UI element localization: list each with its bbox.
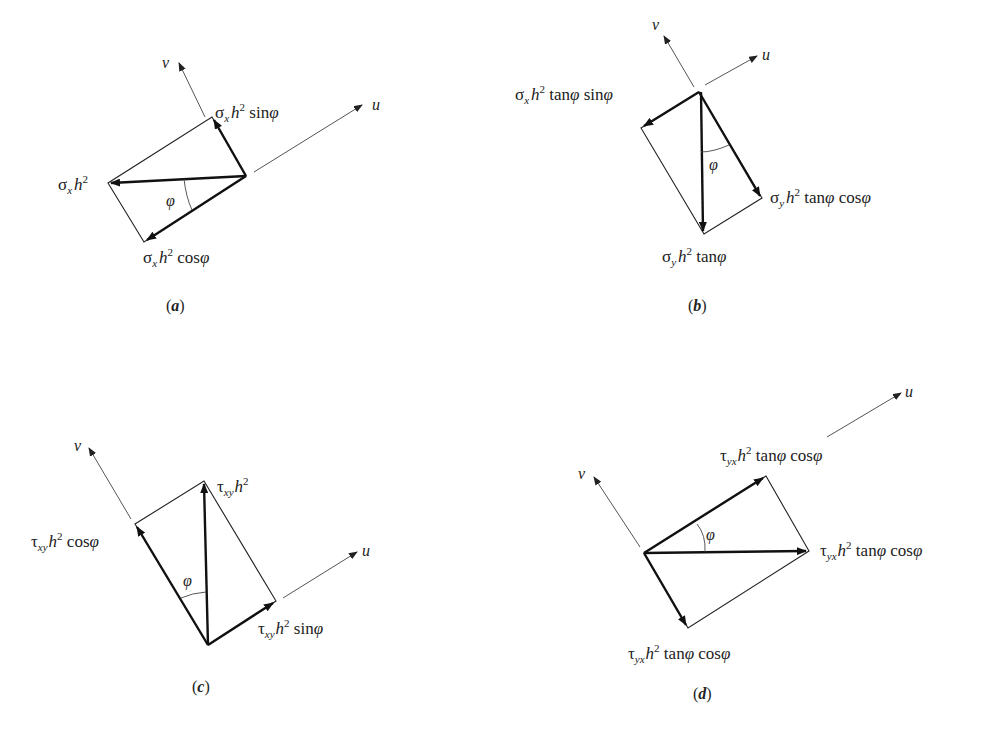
angle-phi-label: φ <box>706 526 715 544</box>
v-axis-label: v <box>74 437 82 454</box>
v-axis-arrow <box>594 477 640 547</box>
angle-arc <box>184 179 192 210</box>
resultant-arrow <box>111 176 246 183</box>
u-axis-label: u <box>372 96 380 113</box>
angle-arc <box>701 145 729 152</box>
label-resultant: σxh2 <box>58 173 88 196</box>
caption-d: (d) <box>693 685 712 703</box>
cos-component-arrow <box>137 527 208 645</box>
x-component-arrow <box>644 92 699 126</box>
cos-component-arrow <box>644 478 763 553</box>
u-axis-arrow <box>827 393 901 437</box>
cos-component-arrow <box>699 92 760 196</box>
label-sin-component: σxh2 sinφ <box>215 101 279 124</box>
force-resolution-diagram: v u φ σxh2 sinφ σxh2 σxh2 cosφ (a) v u φ… <box>0 0 988 736</box>
v-axis-label: v <box>578 465 586 482</box>
label-sin-component: τxyh2 sinφ <box>258 617 323 640</box>
u-axis-label: u <box>905 383 913 400</box>
label-bottom-component: τyxh2 tanφ cosφ <box>628 642 730 665</box>
u-axis-label: u <box>762 46 770 63</box>
u-axis-arrow <box>705 56 757 85</box>
caption-c: (c) <box>192 678 210 696</box>
label-resultant: σyh2 tanφ <box>662 245 727 268</box>
u-axis-arrow <box>283 552 357 598</box>
angle-arc <box>181 592 206 598</box>
v-axis-label: v <box>652 16 660 33</box>
label-resultant: τyxh2 tanφ cosφ <box>820 539 922 562</box>
cos-component-arrow <box>147 176 246 240</box>
sin-component-arrow <box>214 120 246 176</box>
u-axis-label: u <box>362 542 370 559</box>
panel-a: v u φ σxh2 sinφ σxh2 σxh2 cosφ (a) <box>58 54 380 315</box>
caption-b: (b) <box>688 297 707 315</box>
label-cos-component: τxyh2 cosφ <box>31 530 99 553</box>
angle-phi-label: φ <box>166 192 175 210</box>
panel-d: v u φ τyxh2 tanφ cosφ τyxh2 tanφ cosφ τy… <box>578 383 922 703</box>
angle-phi-label: φ <box>709 156 718 174</box>
v-axis-arrow <box>664 36 694 87</box>
tan-resultant-arrow <box>701 92 703 231</box>
v-axis-arrow <box>179 63 205 117</box>
v-axis-label: v <box>162 54 170 71</box>
angle-phi-label: φ <box>183 572 192 590</box>
label-cos-component: σyh2 tanφ cosφ <box>770 186 871 209</box>
label-resultant: τxyh2 <box>217 475 249 498</box>
resultant-arrow <box>644 551 806 553</box>
panel-b: v u φ σxh2 tanφ sinφ σyh2 tanφ cosφ σyh2… <box>515 16 871 315</box>
label-cos-component: σxh2 cosφ <box>143 246 209 269</box>
v-axis-arrow <box>89 448 131 519</box>
label-top-component: τyxh2 tanφ cosφ <box>720 444 822 467</box>
panel-c: v u φ τxyh2 τxyh2 cosφ τxyh2 sinφ (c) <box>31 437 370 696</box>
sin-component-arrow <box>644 553 686 625</box>
label-sin-component: σxh2 tanφ sinφ <box>515 83 613 106</box>
caption-a: (a) <box>166 297 185 315</box>
resultant-arrow <box>204 484 208 645</box>
angle-arc <box>697 524 705 552</box>
